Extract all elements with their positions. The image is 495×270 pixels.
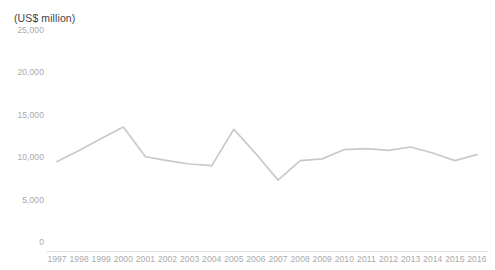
x-axis-tick-label: 2003 [180, 254, 199, 264]
x-axis: 1997199819992000200120022003200420052006… [46, 254, 488, 270]
y-axis: 05,00010,00015,00020,00025,000 [0, 0, 44, 270]
x-axis-tick-label: 1998 [69, 254, 88, 264]
x-axis-tick-label: 1999 [92, 254, 111, 264]
y-axis-tick-label: 20,000 [4, 67, 44, 77]
plot-area [46, 30, 488, 242]
x-axis-tick-label: 2009 [313, 254, 332, 264]
x-axis-tick-label: 2008 [290, 254, 309, 264]
x-axis-tick-label: 2016 [467, 254, 486, 264]
y-axis-tick-label: 25,000 [4, 25, 44, 35]
y-axis-tick-label: 0 [4, 237, 44, 247]
x-axis-tick-label: 2002 [158, 254, 177, 264]
x-axis-tick-label: 2006 [246, 254, 265, 264]
x-axis-tick-label: 2007 [268, 254, 287, 264]
x-axis-tick-label: 2001 [136, 254, 155, 264]
x-axis-tick-label: 2012 [379, 254, 398, 264]
x-axis-tick-label: 2015 [445, 254, 464, 264]
line-chart: (US$ million) 05,00010,00015,00020,00025… [0, 0, 495, 270]
data-line-svg [46, 30, 488, 242]
y-axis-tick-label: 10,000 [4, 152, 44, 162]
x-axis-tick-label: 2005 [224, 254, 243, 264]
x-axis-tick-label: 2013 [401, 254, 420, 264]
x-axis-tick-label: 1997 [47, 254, 66, 264]
x-axis-tick-label: 2014 [423, 254, 442, 264]
data-series-line [57, 127, 477, 180]
x-axis-tick-label: 2011 [357, 254, 376, 264]
x-axis-tick-label: 2010 [335, 254, 354, 264]
x-axis-tick-label: 2000 [114, 254, 133, 264]
y-axis-tick-label: 15,000 [4, 110, 44, 120]
x-axis-baseline [46, 251, 488, 252]
y-axis-tick-label: 5,000 [4, 195, 44, 205]
x-axis-tick-label: 2004 [202, 254, 221, 264]
